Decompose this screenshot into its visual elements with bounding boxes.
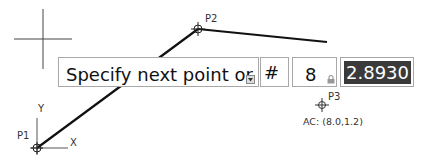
distance-value: 8 bbox=[305, 64, 316, 85]
hash-text: # bbox=[264, 62, 279, 83]
coordinate-readout: AC: (8.0,1.2) bbox=[303, 117, 363, 127]
polyline-segment-1[interactable] bbox=[37, 29, 198, 148]
polyline-segment-rubberband bbox=[198, 29, 327, 42]
prompt-text: Specify next point or bbox=[66, 64, 253, 85]
distance-input[interactable]: 8 bbox=[292, 57, 337, 87]
angle-input[interactable]: 2.8930 bbox=[340, 57, 414, 87]
ucs-y-label: Y bbox=[38, 104, 44, 114]
options-arrow-down-icon[interactable] bbox=[246, 75, 255, 84]
p2-label: P2 bbox=[205, 14, 217, 24]
p1-label: P1 bbox=[17, 131, 29, 141]
p3-label: P3 bbox=[328, 92, 340, 102]
p3-marker-icon bbox=[315, 98, 329, 112]
ucs-x-label: X bbox=[70, 138, 77, 148]
command-prompt-tooltip: Specify next point or bbox=[58, 57, 259, 87]
ucs-icon bbox=[30, 118, 68, 155]
angle-value-selected: 2.8930 bbox=[344, 61, 411, 84]
hash-field[interactable]: # bbox=[260, 57, 289, 87]
lock-icon[interactable] bbox=[327, 75, 335, 84]
